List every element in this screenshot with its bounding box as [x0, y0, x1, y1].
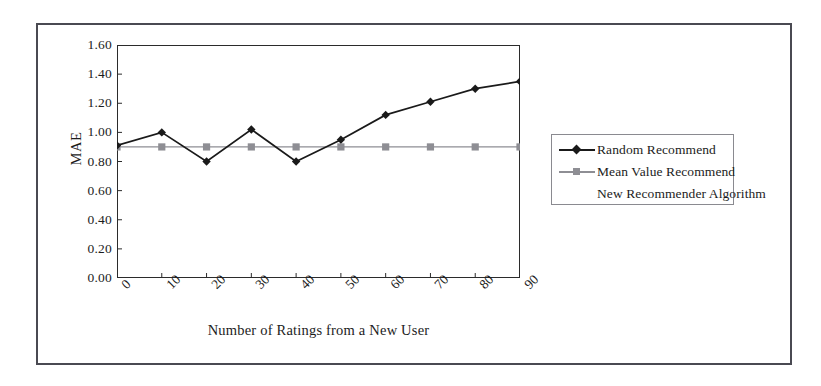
diamond-marker: [381, 111, 389, 119]
x-axis-title: Number of Ratings from a New User: [117, 322, 520, 339]
legend-label: Mean Value Recommend: [597, 165, 735, 179]
series-1: [117, 77, 520, 165]
legend-entry[interactable]: New Recommender Algorithm: [552, 183, 733, 205]
y-axis-tick-label: 1.20: [66, 96, 112, 110]
square-marker: [573, 168, 580, 175]
square-marker: [203, 143, 210, 150]
y-axis-tick-labels: 1.601.401.201.000.800.600.400.200.00: [60, 45, 112, 278]
square-marker: [516, 143, 520, 150]
diamond-marker: [158, 128, 166, 136]
square-marker: [293, 143, 300, 150]
y-axis-tick-label: 0.80: [66, 155, 112, 169]
legend-key: [557, 187, 597, 201]
square-marker: [427, 143, 434, 150]
y-axis-tick-label: 1.00: [66, 125, 112, 139]
square-marker: [382, 143, 389, 150]
y-axis-tick-label: 0.00: [66, 271, 112, 285]
chart-legend: Random RecommendMean Value RecommendNew …: [551, 134, 734, 205]
y-axis-tick-label: 0.20: [66, 242, 112, 256]
square-marker: [158, 143, 165, 150]
data-series-layer: [117, 77, 520, 165]
y-axis-tick-label: 0.60: [66, 184, 112, 198]
legend-label: New Recommender Algorithm: [597, 187, 766, 201]
legend-key: [557, 165, 597, 179]
square-marker: [337, 143, 344, 150]
y-axis-tick-label: 1.60: [66, 38, 112, 52]
x-axis-tick-labels: 0102030405060708090: [117, 282, 520, 316]
legend-entry[interactable]: Mean Value Recommend: [552, 161, 733, 183]
square-marker: [472, 143, 479, 150]
legend-label: Random Recommend: [597, 143, 716, 157]
diamond-marker: [516, 77, 520, 85]
y-axis-tick-label: 1.40: [66, 67, 112, 81]
series-line: [117, 81, 520, 161]
square-marker: [248, 143, 255, 150]
diamond-marker: [471, 84, 479, 92]
plot-canvas: [117, 45, 520, 278]
series-2: [117, 143, 520, 150]
legend-entry[interactable]: Random Recommend: [552, 139, 733, 161]
chart-figure: MAE 1.601.401.201.000.800.600.400.200.00…: [0, 0, 821, 386]
legend-key: [557, 143, 597, 157]
y-axis-tick-label: 0.40: [66, 213, 112, 227]
diamond-marker: [337, 135, 345, 143]
diamond-marker: [572, 145, 582, 155]
diamond-marker: [426, 98, 434, 106]
y-axis-tick-marks: [117, 45, 122, 278]
